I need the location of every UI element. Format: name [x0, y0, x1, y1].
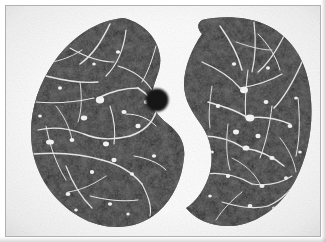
page-edge-shadow-bottom: [0, 237, 326, 242]
ct-scan-viewport: Axial chest CT slice showing both lungs: [0, 0, 326, 242]
scan-title: Axial chest CT slice showing both lungs: [0, 0, 1, 1]
dark-nodule: [146, 89, 169, 112]
page-edge-shadow-right: [321, 0, 326, 242]
scan-frame-border: [5, 5, 321, 237]
ct-image-canvas: [6, 6, 320, 236]
